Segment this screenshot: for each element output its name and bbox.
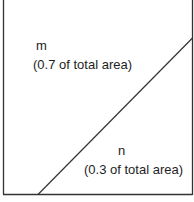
region-m-description: (0.7 of total area) [33,57,132,72]
region-n-description: (0.3 of total area) [84,162,183,177]
region-n-label: n [118,143,125,158]
region-m-label: m [36,38,47,53]
